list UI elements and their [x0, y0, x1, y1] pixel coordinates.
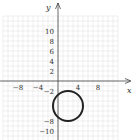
y-tick-label: 8	[50, 38, 54, 46]
x-axis-label: x	[127, 86, 132, 95]
y-tick-label: 10	[45, 28, 54, 36]
grid	[3, 16, 118, 140]
x-tick-label: −8	[13, 84, 23, 92]
y-tick-label: 4	[50, 58, 55, 66]
y-tick-label: 2	[50, 68, 54, 76]
tick-labels: −8−448108642−2−8−10	[13, 28, 100, 136]
y-axis-label: y	[45, 3, 51, 12]
y-tick-label: 6	[50, 48, 55, 56]
x-tick-label: 4	[76, 84, 81, 92]
x-tick-label: 8	[96, 84, 100, 92]
coordinate-plane: −8−448108642−2−8−10 y x	[0, 0, 134, 140]
y-tick-label: −8	[44, 118, 54, 126]
y-tick-label: −10	[39, 128, 54, 136]
axes	[0, 3, 131, 140]
y-tick-label: −2	[44, 88, 54, 96]
x-tick-label: −4	[33, 84, 44, 92]
